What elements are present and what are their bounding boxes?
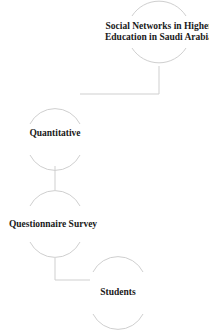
topic-node-bottom-arc xyxy=(132,48,186,63)
sample-node-bottom-arc xyxy=(93,314,143,329)
topic-node-top-arc xyxy=(132,1,186,16)
method-node-bottom-arc xyxy=(30,242,80,257)
node-approach-label: Quantitative xyxy=(10,128,100,139)
node-topic-line2: Education in Saudi Arabia xyxy=(104,32,209,43)
node-topic-line1: Social Networks in Higher xyxy=(104,21,209,32)
approach-node-top-arc xyxy=(30,109,80,124)
sample-node-top-arc xyxy=(93,257,143,272)
node-method-label: Questionnaire Survey xyxy=(0,219,106,230)
edge-topic-approach xyxy=(80,66,159,94)
node-sample-label: Students xyxy=(88,287,148,298)
diagram-canvas xyxy=(0,0,209,334)
edge-method-sample xyxy=(55,258,90,280)
node-topic-label: Social Networks in Higher Education in S… xyxy=(104,21,209,43)
method-node-top-arc xyxy=(30,191,80,206)
